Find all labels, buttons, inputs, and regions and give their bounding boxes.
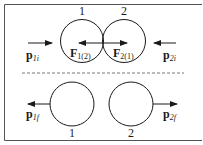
F12-label: F1(2) xyxy=(70,46,91,61)
p1f-label: p1f xyxy=(26,107,41,122)
before-collision: 1 2 p1i p2i F1(2) F2(1) xyxy=(26,4,176,63)
collision-diagram: 1 2 p1i p2i F1(2) F2(1) 1 2 p1f p2f xyxy=(0,0,203,145)
p2f-label: p2f xyxy=(163,107,178,122)
ball-2-label-after: 2 xyxy=(128,126,134,140)
F21-label: F2(1) xyxy=(113,46,134,61)
after-collision: 1 2 p1f p2f xyxy=(26,82,178,140)
ball-1-after xyxy=(50,82,94,126)
p2i-label: p2i xyxy=(163,48,176,63)
p1i-label: p1i xyxy=(26,48,39,63)
ball-1-label-before: 1 xyxy=(79,4,85,18)
ball-1-label-after: 1 xyxy=(69,126,75,140)
ball-2-label-before: 2 xyxy=(121,4,127,18)
ball-2-after xyxy=(109,82,153,126)
